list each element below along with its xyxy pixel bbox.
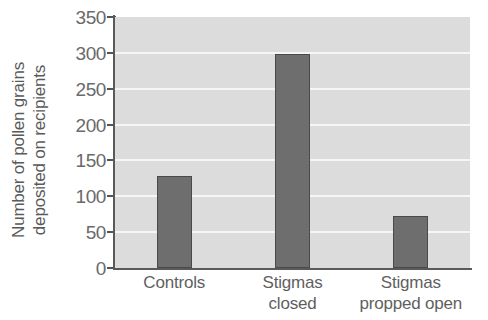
x-axis-tick-label-line: Stigmas bbox=[360, 272, 463, 293]
y-axis-title-line-1: Number of pollen grains bbox=[8, 62, 29, 238]
x-axis-tick-label: Stigmaspropped open bbox=[360, 272, 463, 314]
x-axis-tick-label-line: Stigmas bbox=[262, 272, 322, 293]
y-axis-tick-label: 200 bbox=[75, 115, 106, 134]
bar bbox=[157, 176, 192, 268]
x-axis-tick-label-line: propped open bbox=[360, 293, 463, 314]
x-axis-tick-labels: ControlsStigmasclosedStigmaspropped open bbox=[115, 272, 470, 320]
bar bbox=[393, 216, 428, 268]
bar bbox=[275, 54, 310, 268]
y-axis-tick-label: 250 bbox=[75, 79, 106, 98]
y-axis-tick-label: 50 bbox=[86, 223, 106, 242]
plot-area bbox=[115, 17, 470, 268]
y-axis-tick-labels: 050100150200250300350 bbox=[58, 0, 110, 320]
bar-chart-figure: Number of pollen grains deposited on rec… bbox=[0, 0, 488, 320]
x-axis-tick-label: Stigmasclosed bbox=[262, 272, 322, 314]
y-axis-tick-label: 300 bbox=[75, 43, 106, 62]
x-axis-tick-label: Controls bbox=[143, 272, 205, 293]
y-axis-tick-label: 150 bbox=[75, 151, 106, 170]
y-axis-tick-label: 100 bbox=[75, 187, 106, 206]
y-axis-title: Number of pollen grains deposited on rec… bbox=[0, 0, 58, 300]
x-axis-tick-label-line: Controls bbox=[143, 272, 205, 293]
y-axis-tick-label: 0 bbox=[96, 259, 106, 278]
y-axis-tick-label: 350 bbox=[75, 8, 106, 27]
x-axis-line bbox=[113, 268, 472, 270]
x-axis-tick-label-line: closed bbox=[262, 293, 322, 314]
y-axis-title-line-2: deposited on recipients bbox=[29, 62, 50, 238]
